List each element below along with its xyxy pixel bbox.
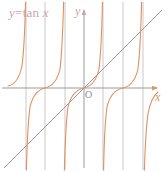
curve-equation-function: tan [23,5,39,20]
curve-equation-label: y=tan x [9,6,49,19]
curve-equation-argument: x [43,5,49,20]
origin-label: O [85,90,92,100]
curve-equation-equals: = [15,5,23,20]
plot-canvas [0,0,166,172]
y-axis-label: y [75,5,80,17]
tangent-branch [64,2,102,170]
x-axis-label: x [155,91,160,103]
tangent-function-figure: y=tan x y x O [0,0,166,172]
tangent-curve [8,2,158,170]
